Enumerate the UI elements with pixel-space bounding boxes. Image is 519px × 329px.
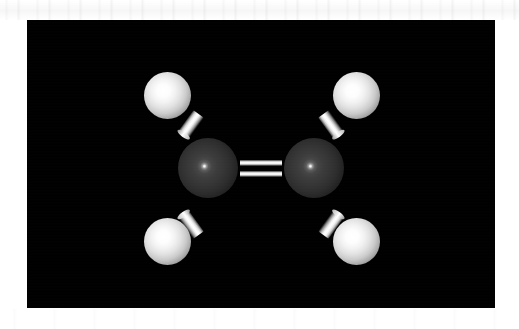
double-bond-upper-rod <box>240 160 282 166</box>
double-bond-lower-rod <box>240 171 282 177</box>
scan-artifact-bottom-margin <box>0 309 519 329</box>
atom-hydrogen-top-left <box>144 72 191 119</box>
render-canvas <box>27 20 495 308</box>
atom-carbon-left <box>178 138 238 198</box>
atom-hydrogen-top-right <box>333 72 380 119</box>
scan-artifact-top-margin <box>0 0 519 20</box>
atom-carbon-right <box>284 138 344 198</box>
atom-hydrogen-bottom-right <box>333 218 380 265</box>
atom-hydrogen-bottom-left <box>144 218 191 265</box>
molecular-model-figure <box>0 0 519 329</box>
